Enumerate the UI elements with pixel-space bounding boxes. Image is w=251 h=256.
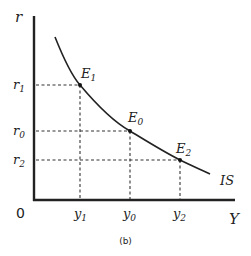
y-axis-label: r	[15, 8, 23, 26]
label-r1: r1	[13, 77, 25, 94]
point-e1	[78, 83, 82, 87]
is-curve-diagram: r Y 0 E1 E0 E2 r1 r0 r2 y1 y0 y2 IS (b)	[0, 0, 251, 256]
caption: (b)	[119, 236, 132, 246]
origin-label: 0	[16, 205, 25, 221]
label-y0: y0	[122, 206, 136, 223]
x-axis-label: Y	[229, 210, 241, 228]
label-e2: E2	[175, 141, 192, 158]
label-e0: E0	[127, 110, 144, 127]
curve-label-is: IS	[219, 173, 234, 188]
label-r2: r2	[13, 152, 25, 169]
label-r0: r0	[13, 123, 25, 140]
guide-lines	[36, 85, 180, 199]
label-e1: E1	[80, 66, 96, 83]
label-y1: y1	[73, 206, 87, 223]
point-e2	[178, 158, 182, 162]
point-e0	[128, 129, 132, 133]
label-y2: y2	[172, 206, 186, 223]
